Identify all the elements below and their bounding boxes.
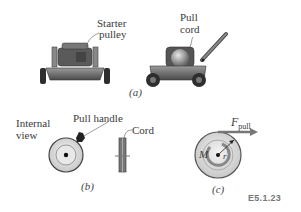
label-internal-view-line2: view: [16, 130, 37, 141]
label-moment: M: [199, 149, 208, 160]
caption-b: (b): [81, 180, 94, 192]
force-subscript: pull: [238, 122, 250, 131]
label-internal-view-line1: Internal: [16, 118, 50, 129]
label-starter-pulley-line2: pulley: [99, 29, 127, 40]
label-pull-handle: Pull handle: [73, 113, 123, 124]
caption-c: (c): [212, 183, 224, 195]
label-force-pull: Fpull: [231, 117, 251, 132]
diagram-canvas: [0, 0, 301, 212]
label-pull-cord-line1: Pull: [180, 12, 198, 23]
lawn-mower-side-view: [146, 34, 226, 87]
caption-a: (a): [129, 86, 142, 98]
figure-id-label: E5.1.23: [248, 193, 281, 203]
label-radius: r: [223, 151, 227, 162]
pulley-edge-view: [115, 130, 132, 172]
label-cord: Cord: [132, 125, 154, 136]
lawn-mower-front-view: [40, 33, 110, 84]
label-pull-cord-line2: cord: [180, 24, 200, 35]
pulley-front-view: [49, 122, 108, 172]
